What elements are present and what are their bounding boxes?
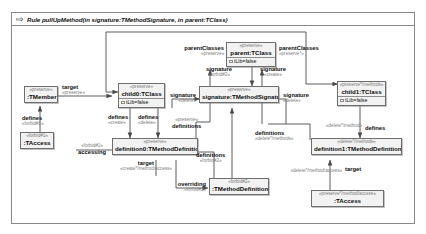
edge-label-defines-right-stereo: «delete*/method» — [288, 123, 362, 129]
edge-label-parentclasses-right: parentClasses «preserve*» — [279, 45, 319, 57]
edge-label-defines-right-role-text: defines — [365, 125, 385, 131]
attribute-marker-icon — [340, 99, 344, 103]
edge-label-accessing: «forbid#1» accessing — [78, 143, 106, 155]
node-taccess-left-name: :TAccess — [21, 139, 53, 148]
edge-label-definitions-delete-stereo: «delete*/methods» — [255, 136, 293, 142]
node-tmember-name: :TMember — [25, 93, 57, 102]
edge-label-signature-forbid-stereo: «forbid#2» — [206, 72, 232, 78]
edge-label-signature-delete2: signature «delete» — [283, 92, 309, 104]
node-definition1[interactable]: «delete*/methods» definition1:TMethodDef… — [311, 138, 402, 155]
node-child0-name: child0:TClass — [119, 90, 164, 98]
node-parent[interactable]: «preserve» parent:TClass tLib=false — [226, 42, 276, 67]
edge-label-definitions-forbid2-stereo: «forbid#2» — [196, 158, 225, 164]
edge-label-defines-create-stereo: «create» — [108, 120, 128, 126]
node-parent-attr: tLib=false — [234, 58, 256, 65]
attribute-marker-icon — [121, 101, 125, 105]
edge-label-target-right-role-text: target — [345, 166, 361, 172]
edge-label-target-left: target «create*/method/access» — [120, 160, 172, 172]
edge-label-defines-right-role: defines — [365, 125, 385, 131]
node-forbid-methoddefinition-name: :TMethodDefinition — [210, 185, 268, 194]
node-child1-name: child1:TClass — [338, 88, 385, 96]
edge-label-signature-delete2-stereo: «delete» — [283, 98, 309, 104]
edge-label-signature-create: signature «create» — [260, 66, 286, 78]
edge-label-defines-create: defines «create» — [108, 114, 128, 126]
edge-label-defines-delete-stereo: «delete» — [138, 120, 158, 126]
node-child0-attr: tLib=false — [126, 99, 148, 106]
edge-label-target-right: «delete*/method/access» — [264, 168, 342, 174]
node-forbid-methoddefinition[interactable]: «forbid#2» :TMethodDefinition — [209, 178, 269, 195]
edge-label-defines-right: «delete*/method» — [288, 123, 362, 129]
node-definition0-name: definition0:TMethodDefinition — [113, 145, 197, 154]
edge-label-overriding: overriding «forbid#2» — [144, 181, 206, 193]
node-parent-attributes: tLib=false — [227, 57, 275, 66]
edge-label-signature-delete: signature «delete» — [160, 92, 196, 104]
edge-label-target-right-role: target — [345, 166, 361, 172]
edge-label-defines-delete: defines «delete» — [138, 114, 158, 126]
edge-label-signature-forbid: signature «forbid#2» — [206, 66, 232, 78]
edge-label-target-left-stereo: «create*/method/access» — [120, 166, 172, 172]
node-taccess-right[interactable]: «preserve*/method/access» :TAccess — [311, 190, 384, 207]
edge-label-target-tmember: target «preserve» — [62, 84, 85, 96]
node-child0[interactable]: «preserve» child0:TClass tLib=false — [118, 83, 165, 108]
edge-label-definitions-delete: definitions «delete*/methods» — [255, 130, 293, 142]
node-tmember[interactable]: «preserve» :TMember — [24, 86, 58, 103]
edge-parentclasses-right-2 — [306, 60, 338, 84]
edge-label-definitions-preserve-role: definitions — [172, 123, 201, 129]
node-child0-attributes: tLib=false — [119, 98, 164, 107]
edge-parentclasses-left — [106, 60, 118, 92]
node-taccess-left[interactable]: «forbid#1» :TAccess — [20, 132, 54, 149]
node-definition0[interactable]: «preserve» definition0:TMethodDefinition — [112, 138, 198, 155]
edge-label-definitions-forbid2: definitions «forbid#2» — [196, 152, 225, 164]
node-taccess-right-name: :TAccess — [312, 197, 383, 206]
node-signature-name: signature:TMethodSignature — [200, 93, 278, 102]
node-definition1-name: definition1:TMethodDefinition — [312, 145, 401, 154]
edge-label-parentclasses-left-stereo: «preserve» — [176, 51, 224, 57]
edge-label-overriding-stereo: «forbid#2» — [144, 187, 206, 193]
edge-label-target-tmember-stereo: «preserve» — [62, 90, 85, 96]
edge-label-parentclasses-right-stereo: «preserve*» — [279, 51, 319, 57]
node-signature[interactable]: «preserve» signature:TMethodSignature — [199, 86, 279, 103]
attribute-marker-icon — [229, 60, 233, 64]
diagram-canvas: ⇨ Rule pullUpMethod(in signature:TMethod… — [0, 0, 426, 234]
node-parent-name: parent:TClass — [227, 49, 275, 57]
edge-label-parentclasses-left: parentClasses «preserve» — [176, 45, 224, 57]
node-child1[interactable]: «preserve*/methods» child1:TClass tLib=f… — [337, 81, 386, 106]
edge-label-defines-forbid1: defines «forbid#1» — [22, 115, 44, 127]
node-child1-attr: tLib=false — [345, 97, 367, 104]
edge-label-signature-delete-stereo: «delete» — [160, 98, 196, 104]
node-child1-attributes: tLib=false — [338, 96, 385, 105]
edge-label-signature-create-stereo: «create» — [260, 72, 286, 78]
edge-label-target-right-stereo: «delete*/method/access» — [264, 168, 342, 174]
edge-label-accessing-role: accessing — [78, 149, 106, 155]
edge-label-defines-forbid1-stereo: «forbid#1» — [22, 121, 44, 127]
edge-label-definitions-preserve: «preserve» definitions — [172, 117, 201, 129]
